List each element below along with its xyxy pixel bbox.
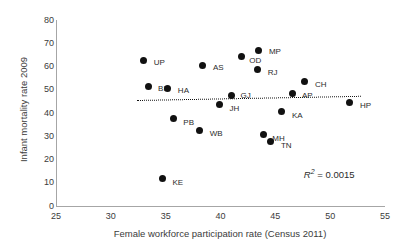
x-axis-title: Female workforce participation rate (Cen…	[40, 228, 400, 239]
data-point-label-WB: WB	[210, 130, 223, 138]
data-point-label-KA: KA	[292, 112, 303, 120]
x-tick-30: 30	[91, 212, 131, 221]
y-tick-0: 0	[0, 202, 54, 211]
x-tick-55: 55	[365, 212, 403, 221]
y-tick-80: 80	[0, 16, 54, 25]
scatter-chart: 01020304050607080 25303540455055 Infant …	[0, 0, 403, 252]
y-axis-line	[56, 20, 57, 206]
data-point-label-RJ: RJ	[268, 69, 278, 77]
y-tick-label: 80	[4, 16, 54, 25]
data-point-label-HP: HP	[360, 102, 371, 110]
data-point-AS	[199, 62, 206, 69]
data-point-WB	[196, 127, 203, 134]
data-point-label-KE: KE	[172, 179, 183, 187]
y-tick-label: 0	[4, 202, 54, 211]
r-squared-annotation: R2 = 0.0015	[304, 166, 355, 180]
data-point-MP	[255, 47, 262, 54]
r-squared-symbol: R	[304, 169, 311, 180]
y-tick-label: 40	[4, 109, 54, 118]
y-tick-label: 70	[4, 39, 54, 48]
data-point-label-UP: UP	[154, 59, 165, 67]
y-tick-label: 60	[4, 62, 54, 71]
data-point-label-HA: HA	[178, 87, 189, 95]
data-point-BI	[145, 83, 152, 90]
data-point-label-TN: TN	[281, 142, 292, 150]
data-point-label-OD: OD	[249, 57, 261, 65]
x-tick-45: 45	[255, 212, 295, 221]
data-point-label-CH: CH	[315, 81, 327, 89]
x-tick-25: 25	[36, 212, 76, 221]
data-point-RJ	[254, 66, 261, 73]
data-point-label-JH: JH	[229, 105, 239, 113]
data-point-label-MP: MP	[269, 48, 281, 56]
y-tick-label: 10	[4, 178, 54, 187]
y-tick-label: 20	[4, 155, 54, 164]
data-point-PB	[170, 115, 177, 122]
data-point-label-PB: PB	[183, 119, 194, 127]
data-point-HA	[164, 85, 171, 92]
data-point-GJ	[228, 92, 235, 99]
data-point-MH	[260, 131, 267, 138]
data-point-KA	[278, 108, 285, 115]
data-point-HP	[346, 99, 353, 106]
r-squared-value: 0.0015	[325, 169, 354, 180]
data-point-UP	[140, 57, 147, 64]
data-point-label-GJ: GJ	[240, 92, 250, 100]
r-squared-equals: =	[315, 169, 326, 180]
data-point-TN	[267, 138, 274, 145]
x-tick-35: 35	[146, 212, 186, 221]
y-tick-label: 50	[4, 85, 54, 94]
x-tick-40: 40	[201, 212, 241, 221]
data-point-label-AS: AS	[213, 64, 224, 72]
data-point-OD	[238, 53, 245, 60]
data-point-KE	[159, 175, 166, 182]
x-axis-line	[56, 206, 385, 207]
data-point-JH	[216, 101, 223, 108]
y-tick-label: 30	[4, 132, 54, 141]
data-point-label-AP: AP	[302, 92, 313, 100]
y-axis-title: Infant mortality rate 2009	[18, 25, 29, 195]
data-point-CH	[301, 78, 308, 85]
x-tick-50: 50	[310, 212, 350, 221]
